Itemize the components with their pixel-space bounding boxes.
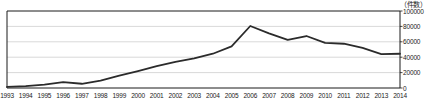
axis-lines-group	[7, 11, 403, 88]
x-axis-tick-label: 2005	[225, 92, 239, 100]
gridlines-group	[7, 11, 400, 73]
x-axis-tick-label: 2004	[206, 92, 220, 100]
x-axis-tick-label: 2001	[150, 92, 164, 100]
y-axis-tick-label: 20000	[403, 69, 420, 76]
x-axis-tick-label: 2006	[243, 92, 257, 100]
x-axis-tick-label: 1994	[19, 92, 33, 100]
y-axis-tick-label: 0	[403, 85, 406, 92]
x-axis-tick-label: 2009	[300, 92, 314, 100]
x-axis-tick-label: 1993	[0, 92, 14, 100]
x-axis-tick-label: 1998	[94, 92, 108, 100]
x-axis-tick-label: 2008	[281, 92, 295, 100]
x-axis-tick-label: 2013	[374, 92, 388, 100]
y-axis-tick-label: 80000	[403, 23, 420, 30]
y-axis-tick-label: 60000	[403, 38, 420, 45]
x-axis-tick-label: 1999	[112, 92, 126, 100]
x-axis-tick-label: 2007	[262, 92, 276, 100]
x-axis-tick-label: 2003	[187, 92, 201, 100]
data-series-line	[7, 26, 400, 87]
x-axis-tick-label: 2014	[393, 92, 407, 100]
x-axis-tick-label: 1996	[56, 92, 70, 100]
x-axis-tick-label: 1995	[38, 92, 52, 100]
x-axis-tick-label: 2002	[169, 92, 183, 100]
x-axis-tick-label: 2010	[318, 92, 332, 100]
y-axis-tick-label: 100000	[403, 8, 424, 15]
x-axis-tick-label: 2012	[356, 92, 370, 100]
chart-plot-area	[0, 0, 429, 104]
x-axis-tick-label: 1997	[75, 92, 89, 100]
x-axis-tick-label: 2000	[131, 92, 145, 100]
x-axis-tick-label: 2011	[337, 92, 350, 100]
y-axis-tick-label: 40000	[403, 54, 420, 61]
line-chart: （件数） 020000400006000080000100000 1993199…	[0, 0, 429, 104]
